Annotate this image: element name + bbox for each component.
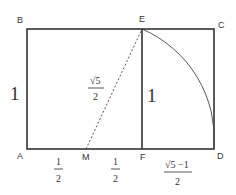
point-label-B: B [17, 15, 23, 25]
MF-label-denominator: 2 [113, 173, 118, 184]
FD-label-denominator: 2 [175, 176, 180, 187]
point-label-D: D [217, 151, 224, 161]
MF-label-numerator: 1 [113, 156, 118, 167]
AM-label-numerator: 1 [56, 156, 61, 167]
segment-ME-dashed [86, 29, 142, 149]
side-label-AB: 1 [10, 83, 20, 104]
golden-rectangle-diagram: B E C A M F D 1 1 √5 2 1 2 1 2 √5 −1 2 [0, 0, 236, 195]
point-label-E: E [139, 14, 145, 24]
ME-label-numerator: √5 [90, 75, 101, 86]
AM-label-denominator: 2 [56, 173, 61, 184]
point-label-A: A [17, 151, 23, 161]
FD-label-numerator: √5 −1 [165, 159, 189, 170]
point-label-M: M [82, 152, 90, 162]
ME-label-denominator: 2 [93, 91, 98, 102]
side-label-EF: 1 [147, 85, 157, 106]
point-label-C: C [218, 20, 225, 30]
point-label-F: F [140, 152, 146, 162]
rectangle-ABCD [27, 29, 214, 149]
